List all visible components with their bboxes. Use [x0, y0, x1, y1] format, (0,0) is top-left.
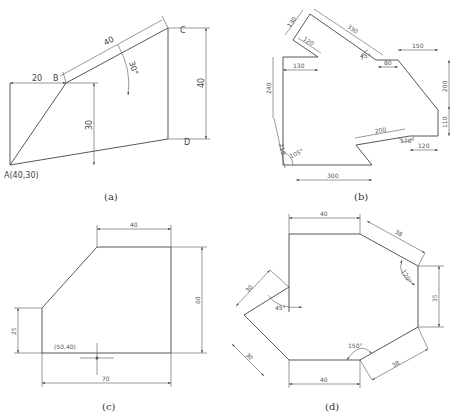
dim-line-330 [314, 9, 383, 55]
point-a-label: A(40,30) [4, 171, 39, 180]
dim-label-40-vert: 40 [197, 78, 206, 88]
dim-label-200-slant: 200 [374, 126, 387, 135]
figure-c: 40 60 25 (50,40) 70 (c) [10, 221, 207, 412]
caption-b: (b) [354, 191, 368, 202]
dim-label-60: 60 [194, 296, 201, 304]
dim-label-30-lower: 30 [244, 351, 254, 361]
dim-label-200-vert: 200 [441, 80, 448, 92]
dim-line-30-lower [232, 344, 264, 376]
caption-d: (d) [325, 401, 339, 412]
dim-label-30: 30 [85, 120, 94, 130]
figure-a: 20 B 40 30° 30 C D 40 A(40,30) (a) [4, 16, 210, 202]
dim-label-240: 240 [265, 82, 272, 94]
caption-a: (a) [104, 191, 118, 202]
dim-label-40-bottom: 40 [320, 376, 328, 383]
point-b-label: B [53, 74, 59, 83]
ext-line [270, 270, 289, 287]
dim-label-30-upper: 30 [244, 283, 254, 293]
dim-label-38-bottom: 38 [391, 359, 401, 369]
shape-d-outline [244, 234, 418, 360]
angle-label-150: 150° [348, 342, 362, 349]
point-c-label: C [180, 26, 186, 35]
ext-line [162, 16, 168, 28]
dim-label-300: 300 [327, 172, 339, 179]
angle-label-120: 120° [400, 268, 413, 284]
dim-label-120: 120 [418, 142, 430, 149]
dim-label-130-top: 130 [285, 15, 297, 29]
dim-label-130: 130 [293, 62, 305, 69]
dim-label-40: 40 [130, 221, 138, 228]
angle-arc-150 [347, 348, 372, 360]
dim-label-35: 35 [431, 294, 438, 302]
angle-label-105: 105° [288, 147, 304, 159]
dim-label-330: 330 [346, 23, 360, 35]
dim-label-25: 25 [10, 327, 17, 335]
angle-label-45: 45° [275, 304, 286, 311]
shape-a-outline [10, 28, 168, 165]
shape-c-outline [42, 247, 171, 353]
point-d-label: D [184, 138, 190, 147]
dim-label-40-top: 40 [320, 210, 328, 217]
point-label-50-40: (50,40) [54, 343, 76, 350]
dim-label-110: 110 [441, 116, 448, 128]
dim-label-80: 80 [384, 59, 392, 66]
figure-b: 130 120 330 45° 80 150 130 240 200 110 2… [265, 9, 449, 202]
cad-exercise-sheet: 20 B 40 30° 30 C D 40 A(40,30) (a) 130 1… [0, 0, 455, 420]
ext-line [418, 327, 428, 349]
ext-line [360, 360, 372, 380]
origin-point [96, 357, 99, 360]
dim-label-150: 150 [412, 42, 424, 49]
angle-label-30: 30° [127, 60, 140, 76]
caption-c: (c) [102, 401, 116, 412]
dim-line-40-slant [60, 20, 162, 76]
dim-label-70: 70 [102, 375, 110, 382]
angle-label-170: 170° [400, 137, 414, 144]
dim-label-40-slant: 40 [102, 35, 115, 48]
angle-label-45: 45° [360, 52, 371, 59]
dim-label-20: 20 [32, 74, 42, 83]
dim-line-38-top [367, 221, 425, 253]
ext-line [418, 253, 425, 266]
figure-d: 40 38 120° 35 30 45° 30 150° 38 40 [232, 210, 444, 412]
